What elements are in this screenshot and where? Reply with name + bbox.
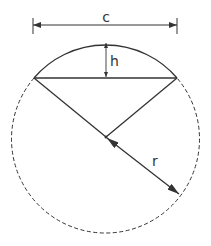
radius-dimension-arrow [107,138,179,194]
radius-line-left [34,78,106,137]
dashed-circle-arc [12,78,200,233]
chord-label: c [102,9,110,25]
height-label: h [110,53,119,69]
radius-label: r [152,153,158,169]
circular-segment-diagram: c h r [0,0,211,246]
radius-line-right [106,78,177,137]
segment-arc [34,45,177,78]
